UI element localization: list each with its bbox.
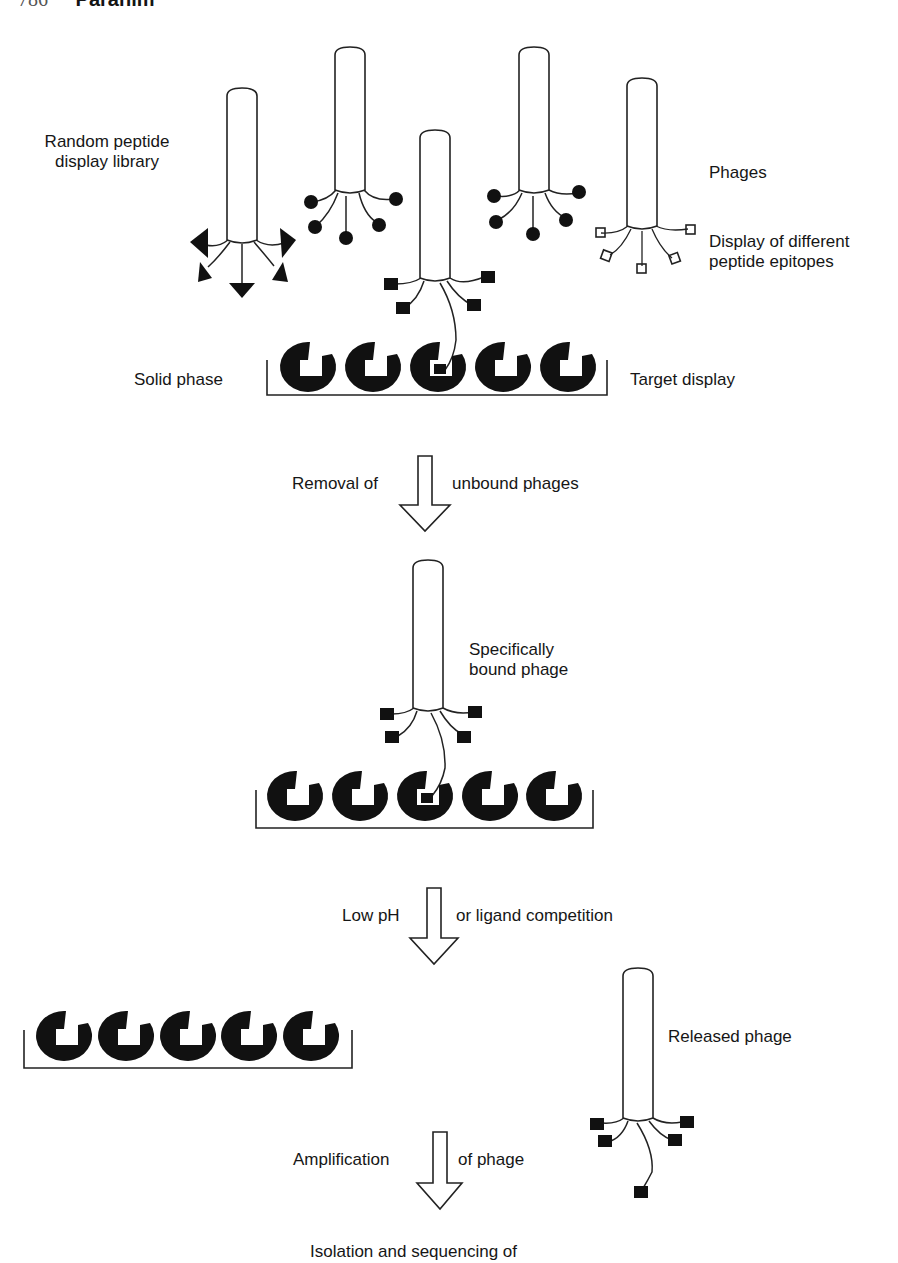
label-released-phage: Released phage (668, 1027, 792, 1047)
solid-phase-plate-1 (267, 342, 607, 395)
label-display-epitopes: Display of different peptide epitopes (709, 232, 849, 272)
hollow-down-arrow-icon (400, 456, 450, 531)
label-library-line2: display library (22, 152, 192, 172)
label-amplification: Amplification (293, 1150, 389, 1170)
label-specifically-bound-phage: Specifically bound phage (469, 640, 568, 680)
label-removal-of: Removal of (292, 474, 378, 494)
phage-square-epitopes-binding (384, 130, 495, 370)
label-low-ph: Low pH (342, 906, 400, 926)
phage-specifically-bound (380, 560, 482, 796)
hollow-down-arrow-icon-2 (410, 888, 458, 964)
phage-released (590, 968, 694, 1198)
label-solid-phase: Solid phase (134, 370, 223, 390)
phage-star-epitopes (596, 78, 695, 273)
solid-phase-plate-2 (256, 771, 593, 828)
label-phages: Phages (709, 163, 767, 183)
label-unbound-phages: unbound phages (452, 474, 579, 494)
phage-display-diagram (0, 0, 898, 1263)
label-random-library: Random peptide display library (22, 132, 192, 172)
label-library-line1: Random peptide (22, 132, 192, 152)
label-epitopes-line2: peptide epitopes (709, 252, 849, 272)
label-ligand-competition: or ligand competition (456, 906, 613, 926)
hollow-down-arrow-icon-3 (417, 1132, 462, 1209)
label-epitopes-line1: Display of different (709, 232, 849, 252)
label-isolation-sequencing: Isolation and sequencing of (310, 1242, 517, 1262)
solid-phase-plate-3-empty (24, 1011, 352, 1068)
phage-circle-epitopes-2 (487, 47, 586, 241)
phage-circle-epitopes (304, 47, 403, 245)
label-bound-line1: Specifically (469, 640, 568, 660)
label-target-display: Target display (630, 370, 735, 390)
label-of-phage: of phage (458, 1150, 524, 1170)
phage-triangle-epitopes (190, 88, 296, 298)
label-bound-line2: bound phage (469, 660, 568, 680)
